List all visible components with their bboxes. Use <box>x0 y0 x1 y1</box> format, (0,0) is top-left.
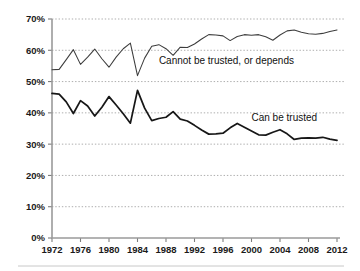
x-tick-label: 1980 <box>98 244 119 255</box>
trust-line-chart: 0%10%20%30%40%50%60%70% 1972197619801984… <box>0 0 360 271</box>
y-tick-label: 20% <box>26 170 46 181</box>
data-series <box>52 30 337 140</box>
y-tick-label: 50% <box>26 76 46 87</box>
y-tick-label: 40% <box>26 107 46 118</box>
x-tick-label: 1976 <box>70 244 91 255</box>
y-tick-label: 70% <box>26 13 46 24</box>
x-tick-label: 1988 <box>155 244 176 255</box>
x-tick-label: 1996 <box>212 244 233 255</box>
x-tick-label: 2004 <box>269 244 291 255</box>
x-tick-label: 1984 <box>127 244 149 255</box>
x-tick-label: 1992 <box>184 244 205 255</box>
series-label: Can be trusted <box>252 112 318 123</box>
y-axis-ticks: 0%10%20%30%40%50%60%70% <box>26 13 52 243</box>
y-tick-label: 60% <box>26 45 46 56</box>
y-tick-label: 30% <box>26 139 46 150</box>
y-tick-label: 10% <box>26 201 46 212</box>
series-line <box>52 30 337 76</box>
chart-canvas: 0%10%20%30%40%50%60%70% 1972197619801984… <box>0 0 360 271</box>
x-tick-label: 1972 <box>41 244 62 255</box>
x-axis-ticks: 1972197619801984198819921996200020042008… <box>41 238 347 255</box>
x-tick-label: 2008 <box>298 244 319 255</box>
series-label: Cannot be trusted, or depends <box>159 55 294 66</box>
x-tick-label: 2000 <box>241 244 262 255</box>
x-tick-label: 2012 <box>326 244 347 255</box>
y-tick-label: 0% <box>31 232 45 243</box>
